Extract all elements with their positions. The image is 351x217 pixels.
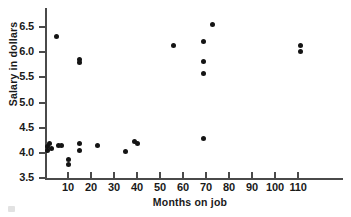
x-tick-mark xyxy=(90,172,92,179)
data-point xyxy=(210,22,215,27)
data-point xyxy=(77,148,82,153)
y-tick-mark xyxy=(39,102,46,104)
data-point xyxy=(77,60,82,65)
x-tick-label: 110 xyxy=(283,181,313,193)
y-axis-line xyxy=(45,8,47,180)
data-point xyxy=(123,149,128,154)
x-tick-mark xyxy=(228,172,230,179)
x-tick-mark xyxy=(113,172,115,179)
x-tick-mark xyxy=(182,172,184,179)
x-tick-mark xyxy=(205,172,207,179)
y-tick-mark xyxy=(39,26,46,28)
data-point xyxy=(298,49,303,54)
x-tick-mark xyxy=(274,172,276,179)
data-point xyxy=(95,143,100,148)
page-scan-artifact xyxy=(8,206,15,212)
data-point xyxy=(54,34,59,39)
data-point xyxy=(59,143,64,148)
data-point xyxy=(298,43,303,48)
x-tick-mark xyxy=(67,172,69,179)
x-tick-mark xyxy=(159,172,161,179)
y-tick-mark xyxy=(39,76,46,78)
data-point xyxy=(49,146,54,151)
x-tick-mark xyxy=(297,172,299,179)
data-point xyxy=(201,39,206,44)
data-point xyxy=(201,136,206,141)
scatter-plot-figure: 3.54.04.55.05.56.06.5 102030405060708090… xyxy=(0,0,351,217)
y-tick-mark xyxy=(39,127,46,129)
y-tick-mark xyxy=(39,177,46,179)
data-point xyxy=(77,141,82,146)
data-point xyxy=(66,157,71,162)
data-point xyxy=(201,71,206,76)
data-point xyxy=(66,162,71,167)
x-tick-mark xyxy=(136,172,138,179)
y-tick-label: 4.0 xyxy=(0,146,34,158)
x-axis-label: Months on job xyxy=(120,196,260,208)
x-tick-mark xyxy=(251,172,253,179)
data-point xyxy=(201,59,206,64)
data-point xyxy=(171,43,176,48)
y-axis-label: Salary in dollars xyxy=(7,4,19,124)
y-tick-mark xyxy=(39,51,46,53)
data-point xyxy=(135,141,140,146)
y-tick-label: 3.5 xyxy=(0,171,34,183)
